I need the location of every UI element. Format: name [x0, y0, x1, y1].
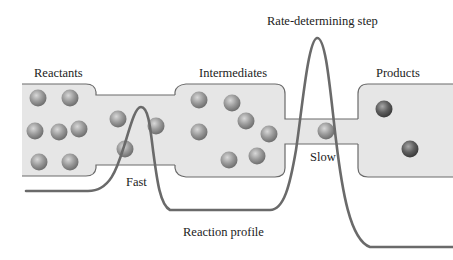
intermediates-label: Intermediates: [199, 67, 267, 80]
reaction-profile-label: Reaction profile: [183, 226, 264, 239]
fast-label: Fast: [126, 176, 147, 189]
rate-determining-step-label: Rate-determining step: [267, 15, 378, 28]
reaction-diagram: Reactants Intermediates Products Rate-de…: [0, 0, 453, 260]
diagram-canvas: [0, 0, 453, 260]
slow-label: Slow: [310, 151, 336, 164]
reactants-label: Reactants: [34, 67, 83, 80]
products-chamber: [358, 84, 453, 177]
products-label: Products: [376, 67, 420, 80]
slow-transit-molecule: [318, 123, 335, 140]
